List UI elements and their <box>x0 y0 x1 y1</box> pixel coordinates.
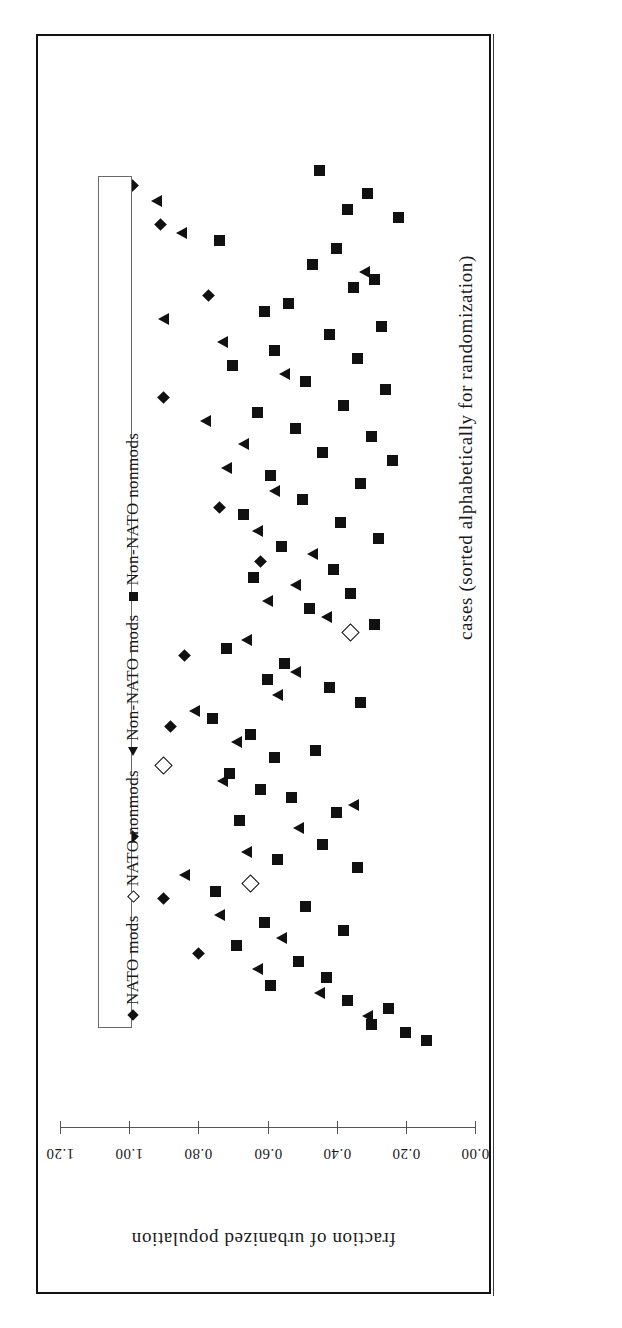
value-axis-tick <box>129 1121 130 1134</box>
data-point-square-filled <box>259 917 270 928</box>
data-point-triangle-left <box>276 932 287 944</box>
data-point-triangle-left <box>214 909 225 921</box>
data-point-square-filled <box>248 572 259 583</box>
data-point-square-filled <box>224 768 235 779</box>
data-point-diamond-filled <box>157 893 170 906</box>
data-point-triangle-left <box>158 313 169 325</box>
legend-entry-3: Non-NATO nonmods <box>123 433 143 601</box>
data-point-square-filled <box>245 729 256 740</box>
data-point-square-filled <box>324 329 335 340</box>
value-axis-tick <box>337 1121 338 1134</box>
data-point-square-filled <box>269 345 280 356</box>
data-point-triangle-left <box>279 368 290 380</box>
value-axis-tick <box>60 1121 61 1134</box>
data-point-triangle-left <box>348 799 359 811</box>
data-point-square-filled <box>279 658 290 669</box>
data-point-diamond-filled <box>154 218 167 231</box>
data-point-triangle-left <box>290 579 301 591</box>
data-point-diamond-open <box>155 756 173 774</box>
square-filled-icon <box>129 592 138 601</box>
data-point-square-filled <box>376 321 387 332</box>
data-point-triangle-left <box>179 869 190 881</box>
data-point-square-filled <box>317 839 328 850</box>
data-point-square-filled <box>276 541 287 552</box>
value-axis-tick-label: 0.20 <box>383 1145 429 1162</box>
data-point-square-filled <box>272 854 283 865</box>
data-point-triangle-left <box>231 736 242 748</box>
data-point-square-filled <box>307 259 318 270</box>
data-point-square-filled <box>355 697 366 708</box>
value-axis-title: fraction of urbanized population <box>36 1228 491 1250</box>
data-point-diamond-filled <box>213 501 226 514</box>
data-point-square-filled <box>331 807 342 818</box>
diamond-filled-icon <box>127 1009 138 1020</box>
value-axis-tick <box>268 1121 269 1134</box>
data-point-square-filled <box>362 188 373 199</box>
data-point-square-filled <box>283 298 294 309</box>
data-point-square-filled <box>255 784 266 795</box>
data-point-triangle-left <box>221 462 232 474</box>
data-point-square-filled <box>369 274 380 285</box>
diamond-open-icon <box>127 890 140 903</box>
data-point-square-filled <box>293 956 304 967</box>
data-point-square-filled <box>304 603 315 614</box>
data-point-square-filled <box>366 1019 377 1030</box>
data-point-triangle-left <box>238 438 249 450</box>
data-point-triangle-left <box>262 595 273 607</box>
data-point-triangle-left <box>176 227 187 239</box>
data-point-diamond-filled <box>164 720 177 733</box>
data-point-triangle-left <box>321 611 332 623</box>
legend-label: NATO nonmods <box>123 770 143 886</box>
data-point-triangle-left <box>272 689 283 701</box>
data-point-triangle-left <box>314 987 325 999</box>
data-point-square-filled <box>328 564 339 575</box>
data-point-square-filled <box>400 1027 411 1038</box>
data-point-square-filled <box>373 533 384 544</box>
value-axis-tick <box>198 1121 199 1134</box>
data-point-square-filled <box>338 925 349 936</box>
data-point-square-filled <box>338 400 349 411</box>
data-point-diamond-filled <box>202 289 215 302</box>
data-point-triangle-left <box>307 548 318 560</box>
data-point-square-filled <box>352 862 363 873</box>
data-point-square-filled <box>369 619 380 630</box>
value-axis-tick-label: 0.60 <box>245 1145 291 1162</box>
data-point-square-filled <box>335 517 346 528</box>
data-point-triangle-left <box>217 336 228 348</box>
data-point-diamond-filled <box>178 650 191 663</box>
data-point-square-filled <box>342 204 353 215</box>
value-axis-tick-label: 0.00 <box>452 1145 498 1162</box>
data-point-square-filled <box>421 1035 432 1046</box>
legend-label: NATO mods <box>123 915 143 1005</box>
legend-entry-0: NATO mods <box>123 915 143 1019</box>
data-point-square-filled <box>324 682 335 693</box>
value-axis-tick <box>475 1121 476 1134</box>
data-point-diamond-filled <box>192 947 205 960</box>
data-point-square-filled <box>387 455 398 466</box>
legend-inner: NATO modsNATO nonmodsNon-NATO modsNon-NA… <box>116 177 150 1023</box>
data-point-square-filled <box>286 792 297 803</box>
data-point-square-filled <box>355 478 366 489</box>
data-point-triangle-left <box>252 963 263 975</box>
value-axis-tick-label: 1.20 <box>37 1145 83 1162</box>
data-point-square-filled <box>393 212 404 223</box>
data-point-square-filled <box>214 235 225 246</box>
data-point-square-filled <box>252 407 263 418</box>
data-point-square-filled <box>221 643 232 654</box>
data-point-square-filled <box>300 376 311 387</box>
data-point-square-filled <box>297 494 308 505</box>
data-point-square-filled <box>380 384 391 395</box>
data-point-square-filled <box>366 431 377 442</box>
data-point-square-filled <box>348 282 359 293</box>
data-point-triangle-left <box>359 266 370 278</box>
data-point-square-filled <box>207 713 218 724</box>
value-axis: 1.201.000.800.600.400.200.00 <box>60 1127 475 1129</box>
data-point-square-filled <box>331 243 342 254</box>
data-point-square-filled <box>262 674 273 685</box>
data-point-square-filled <box>290 423 301 434</box>
data-point-square-filled <box>259 306 270 317</box>
triangle-left-icon <box>128 747 138 756</box>
legend-entry-1: NATO nonmods <box>123 770 143 901</box>
legend-label: Non-NATO mods <box>123 615 143 741</box>
data-point-square-filled <box>269 752 280 763</box>
